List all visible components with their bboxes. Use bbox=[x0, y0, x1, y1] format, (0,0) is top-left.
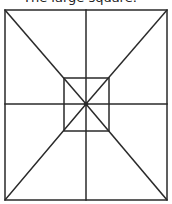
diagonal-top-left bbox=[5, 10, 86, 104]
square-diagram bbox=[0, 0, 172, 204]
diagonal-top-right bbox=[86, 10, 167, 104]
diagonal-bottom-right bbox=[86, 104, 167, 200]
center-point bbox=[84, 102, 87, 105]
diagonal-bottom-left bbox=[5, 104, 86, 200]
